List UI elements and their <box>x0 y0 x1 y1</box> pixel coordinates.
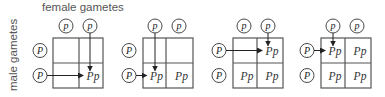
punnett-square-diagram: ppPPPpppPPPpPpppPPPpPpPpppPPPpPpPpPp <box>0 0 385 97</box>
male-gamete-label: P <box>36 45 43 56</box>
offspring-genotype: Pp <box>328 70 342 83</box>
female-gamete-label: p <box>152 20 158 31</box>
male-gamete-label: P <box>215 70 222 81</box>
offspring-genotype: Pp <box>353 70 367 83</box>
female-gamete-label: p <box>354 20 360 31</box>
offspring-genotype: Pp <box>265 70 279 83</box>
offspring-genotype: Pp <box>328 45 342 58</box>
male-gamete-label: P <box>303 45 310 56</box>
offspring-genotype: Pp <box>240 70 254 83</box>
female-gamete-label: p <box>176 20 182 31</box>
offspring-genotype: Pp <box>174 70 188 83</box>
male-gamete-label: P <box>125 70 132 81</box>
male-gamete-label: P <box>125 45 132 56</box>
offspring-genotype: Pp <box>265 45 279 58</box>
punnett-panel-3: ppPPPpPpPp <box>212 19 283 88</box>
punnett-panel-2: ppPPPpPp <box>122 19 193 88</box>
female-gamete-label: p <box>330 20 336 31</box>
male-gamete-label: P <box>303 70 310 81</box>
male-gamete-label: P <box>36 70 43 81</box>
female-gamete-label: p <box>63 20 69 31</box>
male-gamete-label: P <box>215 45 222 56</box>
offspring-genotype: Pp <box>149 70 163 83</box>
punnett-panel-1: ppPPPp <box>33 19 103 88</box>
punnett-panel-4: ppPPPpPpPpPp <box>300 19 371 88</box>
offspring-genotype: Pp <box>353 45 367 58</box>
female-gamete-label: p <box>87 20 93 31</box>
offspring-genotype: Pp <box>86 70 100 83</box>
female-gamete-label: p <box>241 20 247 31</box>
female-gamete-label: p <box>265 20 271 31</box>
